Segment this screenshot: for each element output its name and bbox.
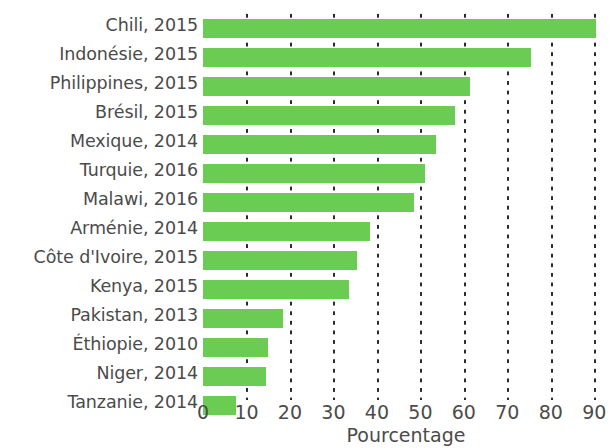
plot-area bbox=[203, 11, 603, 400]
category-label: Niger, 2014 bbox=[0, 359, 198, 388]
bar-row bbox=[203, 69, 603, 98]
bar-row bbox=[203, 11, 603, 40]
x-tick-label: 40 bbox=[365, 400, 389, 424]
category-label: Chili, 2015 bbox=[0, 11, 198, 40]
category-label: Éthiopie, 2010 bbox=[0, 330, 198, 359]
category-axis: Chili, 2015Indonésie, 2015Philippines, 2… bbox=[0, 11, 198, 400]
x-tick-label: 10 bbox=[234, 400, 258, 424]
category-label: Mexique, 2014 bbox=[0, 127, 198, 156]
bar[interactable] bbox=[203, 338, 268, 357]
x-tick-label: 0 bbox=[197, 400, 209, 424]
bar-row bbox=[203, 330, 603, 359]
category-label: Pakistan, 2013 bbox=[0, 301, 198, 330]
bar-row bbox=[203, 127, 603, 156]
x-tick-label: 50 bbox=[408, 400, 432, 424]
category-label: Arménie, 2014 bbox=[0, 214, 198, 243]
x-tick-label: 80 bbox=[539, 400, 563, 424]
bar[interactable] bbox=[203, 164, 425, 183]
category-label: Malawi, 2016 bbox=[0, 185, 198, 214]
bar-row bbox=[203, 98, 603, 127]
x-tick-label: 90 bbox=[582, 400, 606, 424]
bar[interactable] bbox=[203, 193, 414, 212]
category-label: Turquie, 2016 bbox=[0, 156, 198, 185]
bar-row bbox=[203, 243, 603, 272]
bar[interactable] bbox=[203, 222, 370, 241]
bar-chart: Chili, 2015Indonésie, 2015Philippines, 2… bbox=[0, 0, 612, 448]
x-axis-title-label: Pourcentage bbox=[347, 424, 466, 446]
category-label: Brésil, 2015 bbox=[0, 98, 198, 127]
bar[interactable] bbox=[203, 19, 596, 38]
x-axis-title: Pourcentage bbox=[0, 424, 612, 446]
category-label: Indonésie, 2015 bbox=[0, 40, 198, 69]
category-label: Côte d'Ivoire, 2015 bbox=[0, 243, 198, 272]
x-tick-label: 70 bbox=[495, 400, 519, 424]
value-axis: 0102030405060708090 bbox=[203, 400, 603, 426]
bar[interactable] bbox=[203, 367, 266, 386]
bar-row bbox=[203, 185, 603, 214]
x-tick-label: 60 bbox=[452, 400, 476, 424]
bar[interactable] bbox=[203, 106, 455, 125]
bar-row bbox=[203, 301, 603, 330]
bar-row bbox=[203, 40, 603, 69]
bar-row bbox=[203, 272, 603, 301]
bar[interactable] bbox=[203, 48, 531, 67]
bar[interactable] bbox=[203, 280, 349, 299]
bar[interactable] bbox=[203, 135, 436, 154]
bar[interactable] bbox=[203, 309, 283, 328]
bar[interactable] bbox=[203, 251, 357, 270]
category-label: Tanzanie, 2014 bbox=[0, 388, 198, 417]
x-tick-label: 30 bbox=[321, 400, 345, 424]
category-label: Philippines, 2015 bbox=[0, 69, 198, 98]
x-tick-label: 20 bbox=[278, 400, 302, 424]
bar-row bbox=[203, 156, 603, 185]
bar-row bbox=[203, 214, 603, 243]
bar-row bbox=[203, 359, 603, 388]
bar[interactable] bbox=[203, 77, 470, 96]
category-label: Kenya, 2015 bbox=[0, 272, 198, 301]
